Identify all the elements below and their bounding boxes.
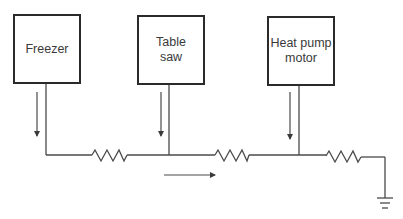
circuit-diagram: Freezer Table saw Heat pump motor — [0, 0, 403, 219]
resistor-1 — [92, 150, 127, 161]
wiring — [0, 0, 403, 219]
resistor-2 — [215, 150, 249, 161]
ground-icon — [377, 198, 393, 208]
resistor-3 — [326, 151, 361, 162]
